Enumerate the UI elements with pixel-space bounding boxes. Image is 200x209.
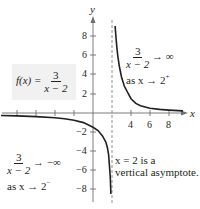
- y-tick-label: 6: [82, 50, 87, 60]
- y-tick-label: 2: [82, 89, 87, 99]
- left-note-superscript: −: [46, 179, 50, 187]
- y-axis-arrow-icon: [91, 16, 96, 23]
- formula-denominator: x − 2: [44, 82, 67, 94]
- y-tick-label: −2: [76, 127, 87, 137]
- right-note-denominator: x − 2: [126, 58, 149, 70]
- left-note-numerator: 3: [14, 151, 24, 164]
- formula-numerator: 3: [51, 69, 61, 82]
- right-note-fraction: 3 x − 2: [126, 45, 149, 70]
- x-tick-label: 4: [128, 120, 133, 130]
- asymptote-note-line2: vertical asymptote.: [115, 166, 199, 178]
- y-tick-label: −8: [76, 184, 87, 194]
- left-limit-note: 3 x − 2 → −∞ as x → 2−: [7, 151, 61, 192]
- left-note-condition: as x → 2: [7, 180, 46, 192]
- x-tick-label: 6: [147, 120, 152, 130]
- left-note-fraction: 3 x − 2: [7, 151, 30, 176]
- left-note-denominator: x − 2: [7, 164, 30, 176]
- asymptote-note: x = 2 is a vertical asymptote.: [115, 154, 199, 178]
- y-tick-label: −4: [76, 146, 87, 156]
- right-note-condition: as x → 2: [126, 74, 165, 86]
- x-tick-label: 8: [166, 120, 171, 130]
- y-axis-label: y: [90, 3, 95, 15]
- y-tick-label: 4: [82, 69, 87, 79]
- y-tick-label: −6: [76, 165, 87, 175]
- formula-fraction: 3 x − 2: [44, 69, 67, 94]
- y-tick-label: 8: [82, 31, 87, 41]
- right-limit-note: 3 x − 2 → ∞ as x → 2+: [126, 45, 174, 86]
- function-formula: f(x) = 3 x − 2: [16, 69, 68, 94]
- asymptote-note-line1: x = 2 is a: [115, 154, 199, 166]
- right-note-numerator: 3: [133, 45, 143, 58]
- right-note-superscript: +: [165, 73, 169, 81]
- x-axis-label: x: [190, 107, 195, 119]
- formula-lhs: f(x) =: [16, 74, 41, 86]
- right-note-arrow: → ∞: [152, 50, 174, 62]
- left-note-arrow: → −∞: [33, 156, 61, 168]
